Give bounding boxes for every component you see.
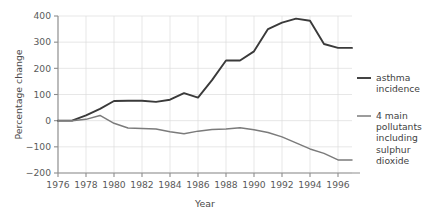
legend-label-text: 4 main (376, 110, 408, 121)
legend-label-text: incidence (376, 83, 420, 94)
percentage-change-line-chart: 4003002001000−100−2001976197819801982198… (0, 0, 428, 223)
x-tick-label: 1996 (326, 179, 350, 190)
x-tick-label: 1980 (102, 179, 126, 190)
x-tick-label: 1990 (242, 179, 266, 190)
y-tick-label: 300 (33, 36, 51, 47)
y-tick-label: 0 (45, 115, 51, 126)
y-tick-label: 100 (33, 89, 51, 100)
legend-label-text: including (376, 132, 418, 143)
x-tick-label: 1976 (46, 179, 70, 190)
x-axis-title: Year (194, 198, 215, 209)
legend-label-text: dioxide (376, 155, 410, 166)
x-tick-label: 1994 (298, 179, 322, 190)
y-tick-label: −100 (26, 141, 51, 152)
legend-label-text: sulphur (376, 144, 411, 155)
legend-label-text: pollutants (376, 121, 422, 132)
legend-label-text: asthma (376, 72, 410, 83)
chart-container: 4003002001000−100−2001976197819801982198… (0, 0, 428, 223)
x-tick-label: 1984 (158, 179, 182, 190)
x-tick-label: 1986 (186, 179, 210, 190)
x-tick-label: 1988 (214, 179, 238, 190)
y-tick-label: 200 (33, 63, 51, 74)
y-axis-title: Percentage change (13, 49, 24, 139)
x-tick-label: 1982 (130, 179, 153, 190)
y-tick-label: 400 (33, 10, 51, 21)
x-tick-label: 1978 (74, 179, 98, 190)
x-tick-label: 1992 (270, 179, 293, 190)
y-tick-label: −200 (26, 167, 51, 178)
